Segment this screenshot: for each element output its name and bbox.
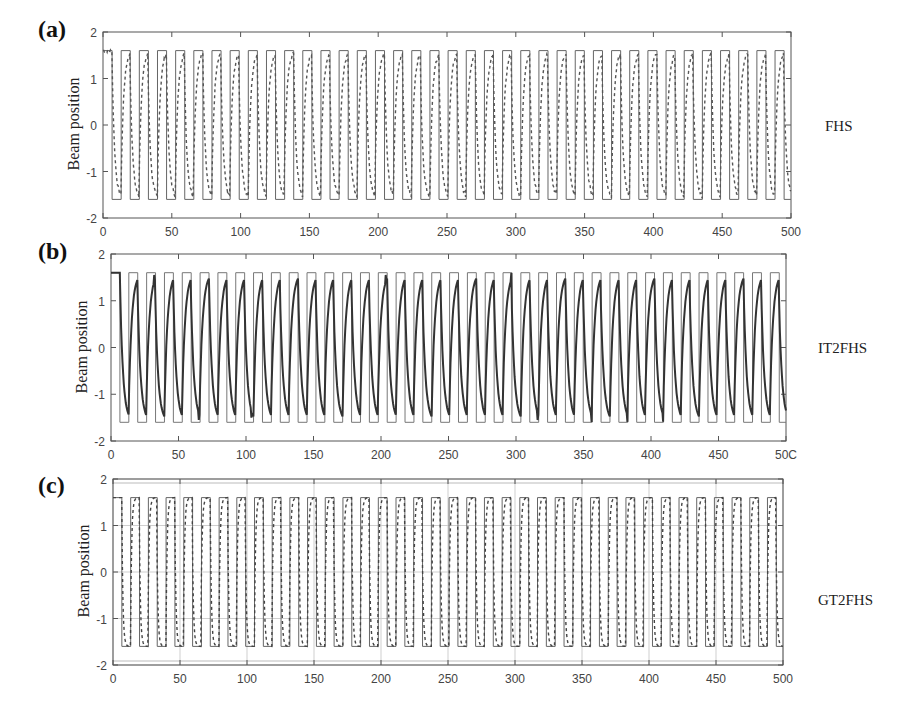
x-tick-label: 100 — [237, 672, 257, 686]
x-tick-label: 50 — [173, 672, 187, 686]
x-tick-label: 0 — [110, 672, 117, 686]
x-tick-label: 400 — [639, 672, 659, 686]
y-tick-label: -2 — [96, 659, 107, 673]
x-tick-label: 150 — [304, 672, 324, 686]
x-tick-label: 300 — [505, 672, 525, 686]
x-tick-label: 450 — [706, 672, 726, 686]
plot-area: 050100150200250300350400450500-2-1012 — [0, 0, 914, 712]
y-tick-label: 2 — [100, 473, 107, 487]
x-tick-label: 200 — [371, 672, 391, 686]
x-tick-label: 350 — [572, 672, 592, 686]
y-tick-label: -1 — [96, 613, 107, 627]
x-tick-label: 500 — [773, 672, 793, 686]
y-tick-label: 0 — [100, 566, 107, 580]
y-tick-label: 1 — [100, 520, 107, 534]
x-tick-label: 250 — [438, 672, 458, 686]
